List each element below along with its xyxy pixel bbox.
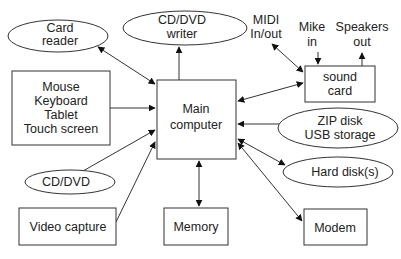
input-devices-label-line3: Tablet (44, 108, 78, 122)
speakers-label-line2: out (353, 35, 371, 49)
card-reader-node: Card reader (8, 20, 108, 52)
edge-video-capture (116, 142, 155, 222)
memory-label: Memory (173, 220, 219, 234)
midi-label: MIDI In/out (250, 13, 282, 41)
hard-disks-node: Hard disk(s) (283, 157, 393, 187)
video-capture-label: Video capture (30, 220, 107, 234)
mike-label: Mike in (299, 20, 325, 49)
input-devices-node: Mouse Keyboard Tablet Touch screen (12, 71, 110, 145)
card-reader-label-line2: reader (42, 34, 78, 48)
edge-sound-card (238, 83, 303, 101)
zip-usb-label-line1: ZIP disk (318, 114, 364, 128)
midi-label-line1: MIDI (253, 13, 279, 27)
zip-usb-node: ZIP disk USB storage (278, 108, 398, 148)
mike-label-line2: in (307, 35, 317, 49)
modem-node: Modem (304, 209, 367, 245)
mike-label-line1: Mike (299, 20, 325, 34)
input-devices-label-line4: Touch screen (24, 122, 98, 136)
edge-modem (238, 143, 302, 221)
main-computer-node: Main computer (157, 80, 236, 159)
input-devices-label-line2: Keyboard (34, 94, 88, 108)
memory-node: Memory (164, 208, 228, 245)
sound-card-label-line2: card (328, 84, 352, 98)
cd-dvd-node: CD/DVD (25, 170, 115, 194)
video-capture-node: Video capture (19, 208, 116, 245)
main-computer-label-line2: computer (170, 118, 222, 132)
speakers-label: Speakers out (336, 20, 389, 49)
hard-disks-label: Hard disk(s) (311, 165, 378, 179)
cd-dvd-writer-label-line2: writer (166, 27, 198, 41)
input-devices-label-line1: Mouse (42, 80, 80, 94)
card-reader-label-line1: Card (46, 21, 73, 35)
cd-dvd-writer-node: CD/DVD writer (123, 11, 247, 45)
sound-card-node: sound card (305, 66, 375, 102)
speakers-label-line1: Speakers (336, 20, 389, 34)
midi-label-line2: In/out (250, 27, 282, 41)
zip-usb-label-line2: USB storage (305, 128, 376, 142)
modem-label: Modem (314, 221, 356, 235)
diagram-canvas: Main computer Card reader CD/DVD writer … (0, 0, 401, 259)
main-computer-label-line1: Main (182, 102, 209, 116)
cd-dvd-writer-label-line1: CD/DVD (158, 13, 206, 27)
sound-card-label-line1: sound (323, 70, 357, 84)
edge-midi (272, 44, 303, 72)
cd-dvd-label: CD/DVD (42, 175, 90, 189)
